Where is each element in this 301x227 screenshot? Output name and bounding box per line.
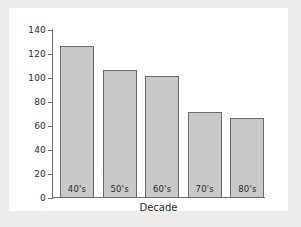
bar: 80's: [230, 118, 264, 198]
bar: 60's: [145, 76, 179, 198]
bar: 50's: [103, 70, 137, 198]
y-axis-tick-label: 100: [28, 73, 46, 83]
y-axis-tick-label: 60: [34, 121, 46, 131]
bar: 70's: [188, 112, 222, 198]
bar-category-label: 80's: [231, 184, 263, 194]
x-axis-title: Decade: [52, 202, 265, 213]
y-axis-tick-label: 80: [34, 97, 46, 107]
y-axis-tick-mark: [48, 150, 52, 151]
y-axis-tick-mark: [48, 78, 52, 79]
bar-category-label: 50's: [104, 184, 136, 194]
y-axis-tick-label: 40: [34, 145, 46, 155]
y-axis-tick-mark: [48, 198, 52, 199]
y-axis-tick-label: 120: [28, 49, 46, 59]
bar-category-label: 60's: [146, 184, 178, 194]
y-axis-line: [52, 29, 53, 199]
y-axis-tick-mark: [48, 126, 52, 127]
bar-category-label: 40's: [61, 184, 93, 194]
y-axis-tick-mark: [48, 102, 52, 103]
y-axis-tick-mark: [48, 54, 52, 55]
bar-category-label: 70's: [189, 184, 221, 194]
y-axis-tick-label: 20: [34, 169, 46, 179]
y-axis-tick-mark: [48, 30, 52, 31]
y-axis-tick-label: 0: [40, 193, 46, 203]
plot-card: 020406080100120140 40's50's60's70's80's …: [9, 8, 288, 211]
bar: 40's: [60, 46, 94, 198]
y-axis-tick-mark: [48, 174, 52, 175]
plot-axes: 020406080100120140 40's50's60's70's80's: [52, 30, 297, 198]
y-axis-tick-label: 140: [28, 25, 46, 35]
chart-figure: 020406080100120140 40's50's60's70's80's …: [0, 0, 301, 227]
